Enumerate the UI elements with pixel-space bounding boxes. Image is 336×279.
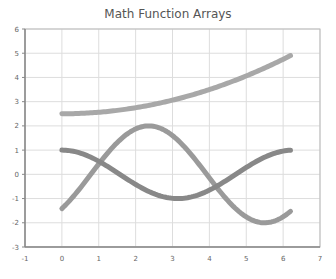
x-tick-label: 2 — [133, 255, 137, 263]
y-tick-label: 4 — [15, 74, 20, 82]
series-line-0 — [62, 56, 291, 114]
x-tick-label: 1 — [97, 255, 101, 263]
y-axis-ticks: -3-2-10123456 — [12, 26, 25, 252]
x-axis-ticks: -101234567 — [22, 255, 323, 263]
data-series — [62, 56, 291, 223]
y-tick-label: -2 — [12, 219, 19, 227]
y-tick-label: 6 — [15, 26, 20, 34]
y-tick-label: -1 — [12, 195, 19, 203]
y-tick-label: 3 — [15, 98, 19, 106]
line-chart: -101234567 -3-2-10123456 — [0, 0, 336, 279]
y-tick-label: 0 — [15, 171, 19, 179]
x-tick-label: 0 — [60, 255, 64, 263]
y-tick-label: -3 — [12, 244, 19, 252]
x-tick-label: 4 — [207, 255, 212, 263]
x-tick-label: 5 — [244, 255, 248, 263]
y-tick-label: 2 — [15, 122, 19, 130]
x-tick-label: 3 — [170, 255, 174, 263]
x-tick-label: -1 — [22, 255, 29, 263]
x-tick-label: 6 — [281, 255, 286, 263]
y-tick-label: 1 — [15, 147, 19, 155]
y-tick-label: 5 — [15, 50, 19, 58]
x-tick-label: 7 — [318, 255, 322, 263]
